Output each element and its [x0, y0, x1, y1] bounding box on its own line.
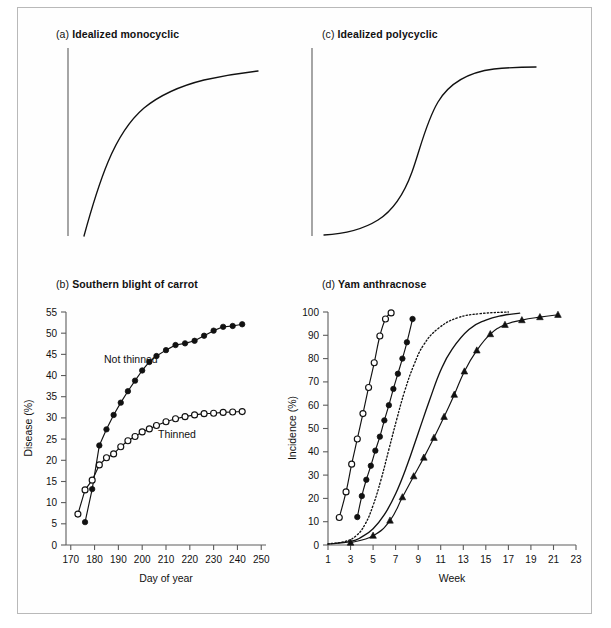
- panel-b-title-text: Southern blight of carrot: [72, 278, 198, 290]
- panel-b-x-ticks: [71, 545, 261, 550]
- panel-d-xtick-9: 9: [415, 554, 421, 565]
- panel-d-y-ticklabels: 100 90 80 70 60 50 40 30 20 10 0: [302, 307, 319, 551]
- panel-d-xtick-23: 23: [570, 554, 582, 565]
- panel-d-xtick-11: 11: [436, 554, 447, 565]
- data-point: [82, 519, 87, 524]
- panel-d-ytick-0: 0: [313, 540, 319, 551]
- panel-c: (c) Idealized polycyclic: [286, 8, 586, 258]
- panel-b-series-thinned: [75, 409, 245, 518]
- data-point: [371, 360, 377, 366]
- data-point: [118, 400, 123, 405]
- panel-a: (a) Idealized monocyclic: [18, 8, 288, 258]
- data-point: [441, 413, 448, 419]
- panel-b-y-ticklabels: 55 50 45 40 35 30 25 20 15 10 5 0: [46, 307, 58, 551]
- panel-d-x-axis-title: Week: [439, 572, 466, 584]
- data-point: [343, 489, 349, 495]
- panel-d-xtick-5: 5: [370, 554, 376, 565]
- panel-b-ytick-30: 30: [46, 412, 58, 423]
- data-point: [182, 341, 187, 346]
- panel-b-xtick-180: 180: [86, 554, 103, 565]
- panel-b-x-ticklabels: 170 180 190 200 210 220 230 240 250: [62, 554, 270, 565]
- data-point: [400, 356, 405, 361]
- panel-d-plot: 100 90 80 70 60 50 40 30 20 10 0: [286, 290, 593, 610]
- data-point: [201, 333, 206, 338]
- data-point: [461, 368, 468, 374]
- data-point: [336, 515, 342, 521]
- data-point: [201, 411, 207, 417]
- data-point: [410, 473, 417, 479]
- panel-d-xtick-1: 1: [325, 554, 331, 565]
- panel-b-ytick-50: 50: [46, 328, 58, 339]
- panel-b-ytick-40: 40: [46, 370, 58, 381]
- panel-b-title: (b) Southern blight of carrot: [56, 278, 198, 290]
- data-point: [139, 368, 144, 373]
- data-point: [103, 455, 109, 461]
- data-point: [239, 322, 244, 327]
- panel-b-xtick-240: 240: [229, 554, 246, 565]
- data-point: [192, 412, 198, 418]
- data-point: [386, 403, 391, 408]
- data-point: [382, 418, 387, 423]
- panel-d-xtick-15: 15: [480, 554, 492, 565]
- data-point: [360, 411, 366, 417]
- panel-c-plot: [286, 36, 586, 266]
- panel-d-title-text: Yam anthracnose: [338, 278, 426, 290]
- panel-a-plot: [18, 36, 288, 266]
- panel-b-y-axis-title: Disease (%): [22, 399, 34, 456]
- data-point: [132, 378, 137, 383]
- panel-b-xtick-220: 220: [181, 554, 198, 565]
- data-point: [388, 310, 394, 316]
- data-point: [111, 451, 117, 457]
- panel-d-ytick-10: 10: [308, 516, 320, 527]
- data-point: [354, 436, 360, 442]
- series-line: [78, 412, 242, 515]
- panel-b-xtick-230: 230: [205, 554, 222, 565]
- panel-b-ytick-45: 45: [46, 349, 58, 360]
- data-point: [368, 463, 373, 468]
- data-point: [239, 409, 245, 415]
- data-point: [366, 384, 372, 390]
- panel-d-ytick-30: 30: [308, 470, 320, 481]
- panel-d-xtick-21: 21: [548, 554, 560, 565]
- data-point: [211, 328, 216, 333]
- data-point: [132, 434, 138, 440]
- panel-d-ytick-40: 40: [308, 446, 320, 457]
- panel-b-label-not-thinned: Not thinned: [104, 353, 158, 365]
- panel-d-ytick-90: 90: [308, 330, 320, 341]
- panel-b-ytick-20: 20: [46, 455, 58, 466]
- panel-d-y-axis-title: Incidence (%): [286, 396, 298, 460]
- panel-d-xtick-13: 13: [458, 554, 470, 565]
- panel-a-curve: [84, 71, 258, 236]
- data-point: [391, 386, 396, 391]
- panel-b-ytick-35: 35: [46, 391, 58, 402]
- panel-d-tag: (d): [322, 278, 335, 290]
- panel-b-ytick-15: 15: [46, 476, 58, 487]
- panel-d-y-ticks: [323, 312, 328, 545]
- panel-b-x-axis-title: Day of year: [139, 572, 193, 584]
- data-point: [125, 389, 130, 394]
- panel-c-curve: [324, 67, 536, 235]
- panel-b-xtick-170: 170: [62, 554, 79, 565]
- data-point: [118, 444, 124, 450]
- data-point: [359, 493, 364, 498]
- panel-d-ytick-50: 50: [308, 423, 320, 434]
- data-point: [395, 371, 400, 376]
- data-point: [555, 311, 562, 317]
- data-point: [211, 410, 217, 416]
- panel-b-ytick-25: 25: [46, 434, 58, 445]
- panel-b-label-thinned: Thinned: [158, 428, 196, 440]
- panel-d-xtick-3: 3: [348, 554, 354, 565]
- data-point: [146, 426, 152, 432]
- data-point: [355, 514, 360, 519]
- figure-frame: (a) Idealized monocyclic (c) Idealized p…: [17, 7, 592, 614]
- data-point: [410, 316, 415, 321]
- panel-b-xtick-210: 210: [158, 554, 175, 565]
- panel-d-ytick-20: 20: [308, 493, 320, 504]
- panel-b-ytick-5: 5: [51, 518, 57, 529]
- panel-b-ytick-10: 10: [46, 497, 58, 508]
- panel-d-ytick-100: 100: [302, 307, 319, 318]
- data-point: [173, 342, 178, 347]
- data-point: [349, 461, 355, 467]
- panel-b-xtick-190: 190: [110, 554, 127, 565]
- panel-d-series-dotted: [328, 312, 508, 544]
